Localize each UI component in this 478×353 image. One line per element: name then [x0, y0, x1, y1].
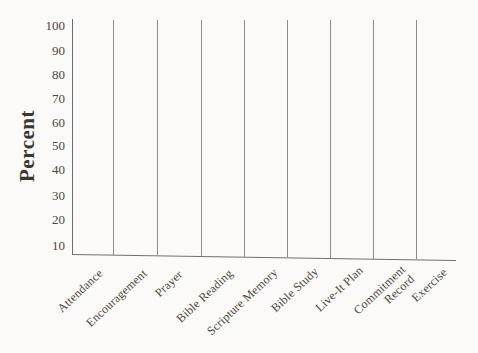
y-tick-label-10: 10	[28, 239, 65, 253]
x-axis-line	[72, 254, 456, 261]
y-tick-label-40: 40	[28, 163, 65, 177]
column-separator-line-1	[113, 20, 114, 255]
column-separator-line-7	[373, 20, 374, 259]
column-separator-line-2	[157, 20, 158, 255]
column-separator-line-4	[244, 20, 245, 257]
y-tick-label-60: 60	[28, 116, 65, 130]
chart-canvas: Percent 100 90 80 70 60 50 40 30 20 10 A…	[0, 0, 478, 353]
column-separator-line-6	[330, 20, 331, 258]
column-separator-line-5	[287, 20, 288, 257]
column-separator-line-3	[201, 20, 202, 256]
column-separator-line-8	[416, 20, 417, 259]
y-axis-line	[72, 19, 73, 255]
y-tick-label-50: 50	[28, 139, 65, 153]
y-tick-label-30: 30	[28, 189, 65, 203]
y-tick-label-100: 100	[28, 19, 65, 33]
y-tick-label-70: 70	[28, 92, 65, 106]
y-tick-label-80: 80	[28, 68, 65, 82]
y-tick-label-90: 90	[28, 44, 65, 58]
x-category-label-prayer: Prayer	[153, 268, 186, 300]
y-tick-label-20: 20	[28, 213, 65, 227]
x-category-label-exercise: Exercise	[410, 266, 450, 305]
